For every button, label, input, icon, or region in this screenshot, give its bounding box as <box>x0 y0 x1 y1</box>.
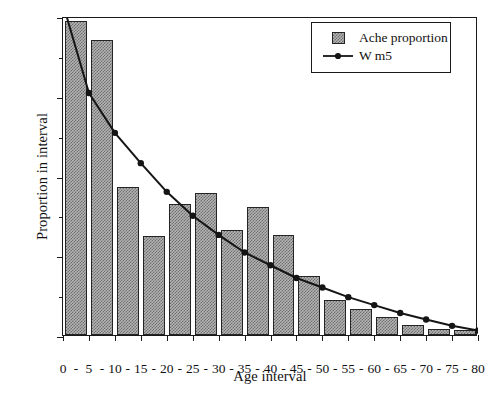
x-axis-tick <box>271 335 272 341</box>
legend-item-ache-proportion: Ache proportion <box>319 29 443 47</box>
x-axis-tick <box>452 335 453 341</box>
chart-legend: Ache proportion W m5 <box>311 22 451 73</box>
x-axis-tick <box>193 335 194 341</box>
legend-item-w-m5: W m5 <box>319 47 443 65</box>
y-axis-title: Proportion in interval <box>34 47 51 307</box>
x-axis-tick <box>296 335 297 341</box>
legend-label: W m5 <box>357 48 392 64</box>
x-axis-tick <box>245 335 246 341</box>
legend-swatch-icon <box>319 32 357 44</box>
x-axis-tick <box>426 335 427 341</box>
x-axis-tick <box>400 335 401 341</box>
x-axis-tick <box>89 335 90 341</box>
x-axis-tick <box>115 335 116 341</box>
x-axis-tick <box>219 335 220 341</box>
legend-line-marker-icon <box>319 50 357 62</box>
x-axis-tick <box>167 335 168 341</box>
x-axis-tick <box>374 335 375 341</box>
chart-figure: Proportion in interval 0.000.050.100.150… <box>0 0 500 396</box>
legend-label: Ache proportion <box>357 30 448 46</box>
x-axis-tick <box>63 335 64 341</box>
x-axis-tick <box>478 335 479 341</box>
x-axis-title: Age interval <box>62 368 478 385</box>
x-axis-tick <box>322 335 323 341</box>
x-axis-tick <box>348 335 349 341</box>
x-axis-tick <box>141 335 142 341</box>
